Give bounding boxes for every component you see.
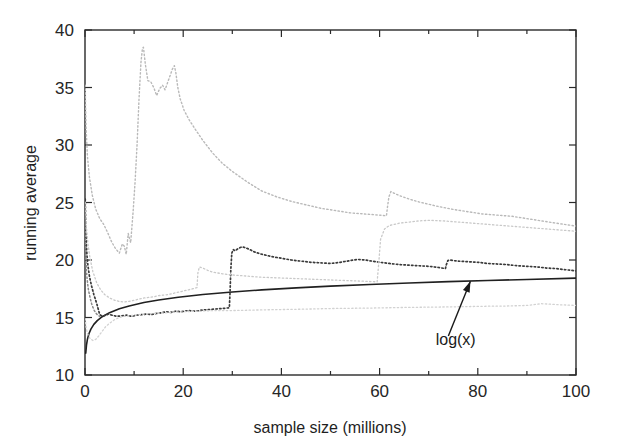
x-tick-label: 100 [562, 382, 590, 401]
y-tick-label: 40 [55, 21, 74, 40]
y-tick-label: 30 [55, 136, 74, 155]
x-tick-label: 80 [468, 382, 487, 401]
figure-container: 020406080100 10152025303540 log(x) sampl… [0, 0, 619, 445]
y-tick-label: 20 [55, 251, 74, 270]
x-axis-title: sample size (millions) [254, 419, 407, 436]
y-axis-title: running average [22, 145, 39, 261]
figure-background [0, 0, 619, 445]
y-tick-label: 10 [55, 366, 74, 385]
y-tick-label: 15 [55, 309, 74, 328]
x-tick-label: 0 [80, 382, 89, 401]
x-tick-label: 20 [174, 382, 193, 401]
x-tick-label: 60 [370, 382, 389, 401]
x-tick-label: 40 [272, 382, 291, 401]
y-tick-label: 25 [55, 194, 74, 213]
y-tick-label: 35 [55, 79, 74, 98]
chart-canvas: 020406080100 10152025303540 log(x) sampl… [0, 0, 619, 445]
annotation-label-log-x: log(x) [436, 331, 476, 348]
